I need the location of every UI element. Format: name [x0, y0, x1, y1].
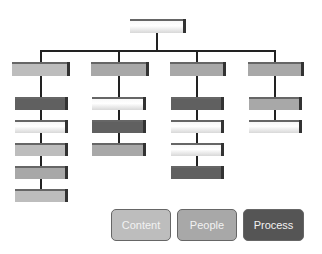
col4-child-node: [249, 97, 299, 110]
horizontal-connector: [40, 50, 275, 52]
col2-child-node: [92, 143, 143, 156]
col3-child-node: [171, 97, 221, 110]
root-node: [130, 19, 183, 33]
col3-child-node: [171, 143, 221, 156]
root-connector: [156, 32, 158, 51]
col2-head-node: [91, 62, 146, 76]
col2-child-node: [92, 97, 143, 110]
col1-child-node: [15, 143, 65, 156]
legend-content: Content: [111, 209, 171, 241]
col3-child-node: [171, 120, 221, 133]
col4-head-node: [248, 62, 301, 76]
col1-child-node: [15, 166, 65, 179]
col2-child-node: [92, 120, 143, 133]
col1-child-node: [15, 120, 65, 133]
col3-child-node: [171, 166, 221, 179]
col3-head-node: [170, 62, 223, 76]
col4-child-node: [249, 120, 299, 133]
org-chart-diagram: Content People Process: [0, 0, 322, 254]
col1-child-node: [15, 97, 65, 110]
col1-child-node: [15, 189, 65, 202]
legend-people: People: [177, 209, 237, 241]
col1-head-node: [12, 62, 67, 76]
legend-process: Process: [243, 209, 304, 241]
